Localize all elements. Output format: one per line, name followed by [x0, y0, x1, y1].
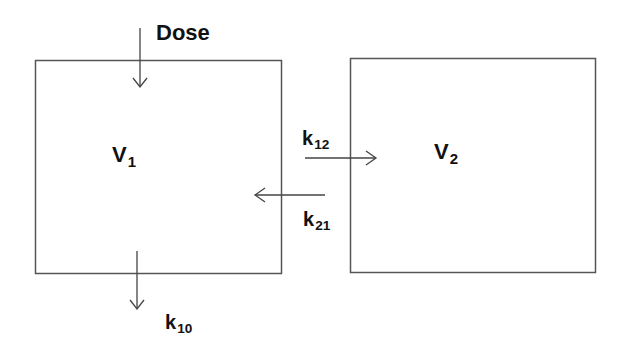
k21-main: k: [303, 208, 314, 230]
k10-main: k: [165, 311, 176, 333]
k12-label: k12: [302, 128, 329, 148]
compartment-v1-box: [36, 61, 282, 274]
k12-subscript: 12: [314, 137, 329, 152]
v1-main: V: [112, 142, 127, 167]
dose-label: Dose: [156, 22, 210, 44]
k12-main: k: [302, 127, 313, 149]
k21-subscript: 21: [315, 218, 330, 233]
diagram-canvas: [0, 0, 623, 352]
v2-main: V: [434, 139, 449, 164]
k10-label: k10: [165, 312, 192, 332]
k10-subscript: 10: [177, 321, 192, 336]
k12-arrow: [305, 151, 376, 165]
k10-arrow: [130, 251, 144, 309]
k21-label: k21: [303, 209, 330, 229]
dose-arrow: [133, 28, 147, 87]
compartment-v2-label: V2: [434, 141, 458, 163]
k21-arrow: [255, 188, 325, 202]
compartment-v1-label: V1: [112, 144, 136, 166]
compartment-v2-box: [351, 59, 596, 273]
v2-subscript: 2: [450, 150, 458, 167]
v1-subscript: 1: [128, 153, 136, 170]
